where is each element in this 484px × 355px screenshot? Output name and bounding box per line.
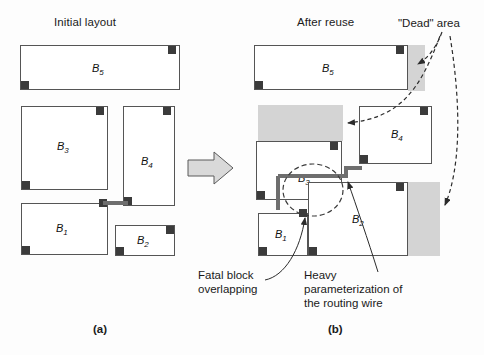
dead-area-leader-1: [418, 32, 442, 64]
dead-area-leader-3: [445, 36, 458, 205]
panel-letter-b: (b): [328, 323, 343, 335]
dead-area-leader-2: [348, 36, 440, 123]
heavy-param-leader: [348, 182, 378, 272]
diagram-overlay: [0, 0, 484, 355]
fatal-overlap-leader: [265, 218, 305, 280]
figure-container: Initial layout After reuse "Dead" area B…: [0, 0, 484, 355]
heavy-param-annotation: Heavy parameterization of the routing wi…: [304, 268, 402, 310]
panel-letter-a: (a): [93, 323, 107, 335]
overlap-highlight-ellipse: [283, 164, 343, 216]
transition-arrow: [188, 152, 233, 184]
fatal-overlap-annotation: Fatal block overlapping: [198, 268, 257, 296]
